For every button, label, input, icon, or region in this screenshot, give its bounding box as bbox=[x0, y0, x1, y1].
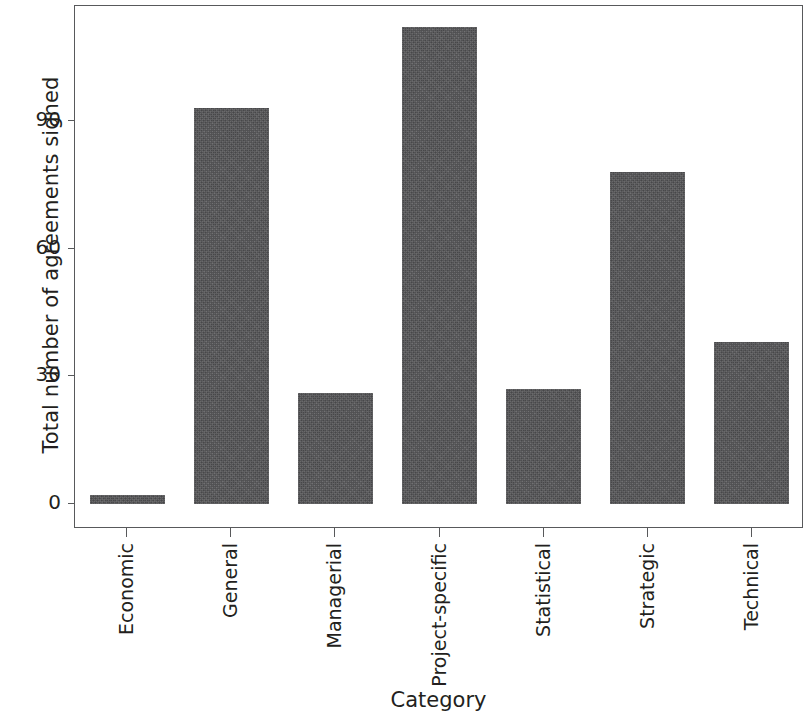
x-tick-label-text: Strategic bbox=[636, 543, 658, 629]
x-tick-mark bbox=[751, 528, 752, 537]
x-tick-label-strategic: Strategic bbox=[647, 543, 667, 629]
plot-area bbox=[74, 5, 803, 528]
x-tick-mark bbox=[439, 528, 440, 537]
x-tick-label-text: Managerial bbox=[323, 543, 345, 648]
bar-statistical bbox=[506, 389, 581, 504]
x-tick-mark bbox=[230, 528, 231, 537]
bar-economic bbox=[90, 495, 165, 504]
x-tick-mark bbox=[126, 528, 127, 537]
x-tick-mark bbox=[543, 528, 544, 537]
bar-general bbox=[194, 108, 269, 504]
x-tick-label-text: Project-specific bbox=[428, 543, 450, 687]
y-tick-label: 30 bbox=[1, 362, 61, 386]
x-tick-label-text: Statistical bbox=[532, 543, 554, 637]
bar-technical bbox=[714, 342, 789, 504]
x-tick-mark bbox=[647, 528, 648, 537]
bar-managerial bbox=[298, 393, 373, 504]
y-tick-label: 90 bbox=[1, 107, 61, 131]
x-axis-title: Category bbox=[74, 688, 803, 712]
x-tick-mark bbox=[334, 528, 335, 537]
x-tick-label-technical: Technical bbox=[751, 543, 771, 630]
x-tick-label-text: Economic bbox=[115, 543, 137, 635]
y-axis-title: Total number of agreements signed bbox=[34, 0, 68, 530]
y-tick-label: 0 bbox=[1, 490, 61, 514]
bar-chart-figure: Total number of agreements signed 030609… bbox=[0, 0, 807, 727]
x-tick-label-economic: Economic bbox=[126, 543, 146, 635]
bar-strategic bbox=[610, 172, 685, 504]
x-tick-label-general: General bbox=[230, 543, 250, 618]
bar-project-specific bbox=[402, 27, 477, 504]
x-tick-label-text: Technical bbox=[740, 543, 762, 630]
x-tick-label-project-specific: Project-specific bbox=[439, 543, 459, 687]
y-tick-label: 60 bbox=[1, 235, 61, 259]
x-tick-label-statistical: Statistical bbox=[543, 543, 563, 637]
x-tick-label-managerial: Managerial bbox=[334, 543, 354, 648]
x-tick-label-text: General bbox=[219, 543, 241, 618]
